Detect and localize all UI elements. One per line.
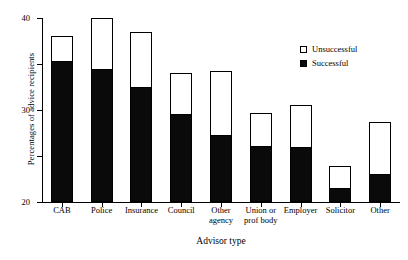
- bar: [51, 36, 73, 202]
- legend-item: Successful: [300, 56, 357, 70]
- bar-segment-successful: [369, 174, 391, 202]
- bar-segment-successful: [329, 188, 351, 202]
- bar-segment-successful: [210, 135, 232, 202]
- y-axis-tick-label: 40: [22, 13, 31, 23]
- bar-segment-successful: [91, 69, 113, 202]
- bar: [369, 122, 391, 203]
- bar-segment-successful: [250, 146, 272, 202]
- y-axis-tick-label: 20: [22, 197, 31, 207]
- y-axis-tick-label: 30: [22, 105, 31, 115]
- bar: [210, 71, 232, 202]
- legend-swatch-icon: [300, 60, 307, 67]
- legend-item: Unsuccessful: [300, 42, 357, 56]
- chart-legend: UnsuccessfulSuccessful: [300, 42, 357, 70]
- legend-label: Unsuccessful: [312, 44, 357, 54]
- bar: [329, 166, 351, 202]
- x-axis-tick-label: Other: [353, 205, 407, 215]
- bar: [250, 113, 272, 202]
- bar: [170, 73, 192, 202]
- bar-segment-successful: [170, 114, 192, 202]
- bar-segment-successful: [290, 147, 312, 202]
- x-axis-tick-labels: CABPoliceInsuranceCouncilOther agencyUni…: [42, 205, 400, 231]
- bar: [290, 105, 312, 202]
- x-axis-title: Advisor type: [42, 236, 400, 246]
- bar-segment-successful: [130, 87, 152, 202]
- bar: [130, 32, 152, 202]
- chart-figure: Percentages of advice recipients 0102030…: [0, 0, 408, 260]
- bar: [91, 18, 113, 202]
- legend-label: Successful: [312, 58, 348, 68]
- legend-swatch-icon: [300, 46, 307, 53]
- bar-segment-successful: [51, 61, 73, 202]
